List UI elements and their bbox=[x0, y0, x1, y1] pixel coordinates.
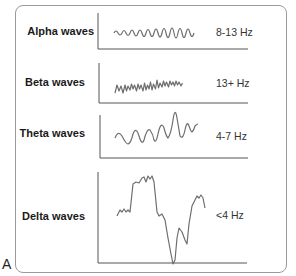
delta-wave bbox=[117, 176, 205, 264]
delta-axis bbox=[98, 172, 247, 263]
beta-wave bbox=[115, 80, 183, 93]
theta-wave bbox=[115, 112, 198, 144]
axes bbox=[98, 13, 248, 263]
alpha-wave bbox=[114, 28, 194, 38]
eeg-waveforms bbox=[0, 0, 296, 276]
